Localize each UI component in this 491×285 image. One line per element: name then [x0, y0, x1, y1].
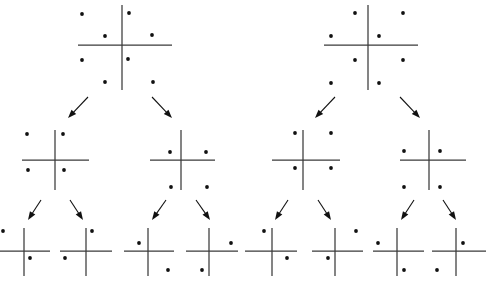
edge-shaft: [72, 97, 88, 113]
data-point-dot: [326, 256, 330, 260]
data-point-dot: [293, 131, 297, 135]
node-L-leaf-1[interactable]: [0, 228, 50, 276]
data-point-dot: [401, 58, 405, 62]
arrowhead-icon: [449, 211, 456, 220]
tree-diagram-svg: [0, 0, 491, 285]
edge-arrow: [28, 200, 41, 220]
dot-group: [80, 11, 155, 84]
data-point-dot: [168, 150, 172, 154]
edge-arrow: [401, 200, 414, 220]
node-L-leaf-2[interactable]: [60, 228, 112, 276]
dot-group: [435, 241, 465, 272]
data-point-dot: [137, 241, 141, 245]
data-point-dot: [353, 58, 357, 62]
node-L-mid-2[interactable]: [150, 130, 215, 190]
arrowhead-icon: [275, 211, 282, 220]
edge-arrow: [196, 200, 210, 220]
dot-group: [200, 241, 233, 272]
data-point-dot: [90, 229, 94, 233]
data-point-dot: [80, 12, 84, 16]
data-point-dot: [63, 256, 67, 260]
data-point-dot: [353, 11, 357, 15]
node-L-mid-1[interactable]: [22, 130, 89, 190]
data-point-dot: [103, 80, 107, 84]
edge-shaft: [152, 97, 168, 113]
data-point-dot: [205, 185, 209, 189]
data-point-dot: [200, 268, 204, 272]
dot-group: [63, 229, 94, 260]
data-point-dot: [127, 11, 131, 15]
edge-shaft: [196, 200, 206, 215]
data-point-dot: [103, 34, 107, 38]
dot-group: [137, 241, 170, 272]
data-point-dot: [25, 132, 29, 136]
node-R-leaf-4[interactable]: [432, 228, 486, 276]
data-point-dot: [166, 268, 170, 272]
arrowhead-icon: [152, 211, 159, 220]
edge-shaft: [400, 97, 416, 113]
data-point-dot: [354, 229, 358, 233]
data-point-dot: [402, 149, 406, 153]
data-point-dot: [377, 81, 381, 85]
diagram-canvas: [0, 0, 491, 285]
dot-group: [329, 11, 405, 85]
dot-group: [25, 132, 66, 172]
tree-right-tree: [245, 5, 486, 276]
edge-arrow: [68, 97, 88, 118]
dot-group: [293, 131, 333, 170]
arrowhead-icon: [324, 211, 331, 220]
node-R-root[interactable]: [324, 5, 418, 90]
edge-arrow: [152, 97, 172, 118]
node-R-mid-1[interactable]: [272, 130, 340, 190]
node-L-leaf-4[interactable]: [186, 228, 238, 276]
data-point-dot: [62, 168, 66, 172]
arrowhead-icon: [28, 211, 35, 220]
arrowhead-icon: [76, 211, 83, 220]
edge-arrow: [315, 97, 335, 118]
node-R-leaf-1[interactable]: [245, 228, 297, 276]
data-point-dot: [438, 149, 442, 153]
data-point-dot: [293, 166, 297, 170]
node-R-leaf-3[interactable]: [373, 228, 424, 276]
edge-arrow: [400, 97, 420, 118]
edge-shaft: [32, 200, 41, 215]
node-L-root[interactable]: [78, 5, 172, 90]
dot-group: [376, 241, 406, 272]
node-R-mid-2[interactable]: [400, 130, 466, 190]
data-point-dot: [150, 33, 154, 37]
edge-shaft: [405, 200, 414, 215]
edge-shaft: [319, 97, 335, 113]
data-point-dot: [285, 256, 289, 260]
data-point-dot: [329, 131, 333, 135]
edge-shaft: [318, 200, 327, 215]
edge-shaft: [156, 200, 166, 215]
node-L-leaf-3[interactable]: [124, 228, 174, 276]
data-point-dot: [126, 57, 130, 61]
data-point-dot: [435, 268, 439, 272]
data-point-dot: [438, 185, 442, 189]
dot-group: [1, 229, 32, 260]
data-point-dot: [329, 34, 333, 38]
dot-group: [168, 150, 209, 189]
data-point-dot: [151, 80, 155, 84]
tree-left-tree: [0, 5, 238, 276]
data-point-dot: [28, 256, 32, 260]
edge-shaft: [443, 200, 452, 215]
edge-arrow: [70, 200, 83, 220]
data-point-dot: [461, 241, 465, 245]
data-point-dot: [262, 229, 266, 233]
data-point-dot: [329, 166, 333, 170]
data-point-dot: [61, 132, 65, 136]
node-R-leaf-2[interactable]: [312, 228, 363, 276]
data-point-dot: [376, 241, 380, 245]
dot-group: [326, 229, 358, 260]
dot-group: [402, 149, 442, 189]
edge-arrow: [152, 200, 166, 220]
arrowhead-icon: [203, 211, 210, 220]
edge-shaft: [279, 200, 288, 215]
data-point-dot: [402, 268, 406, 272]
edge-arrow: [318, 200, 331, 220]
data-point-dot: [402, 185, 406, 189]
data-point-dot: [401, 11, 405, 15]
edge-arrow: [275, 200, 288, 220]
